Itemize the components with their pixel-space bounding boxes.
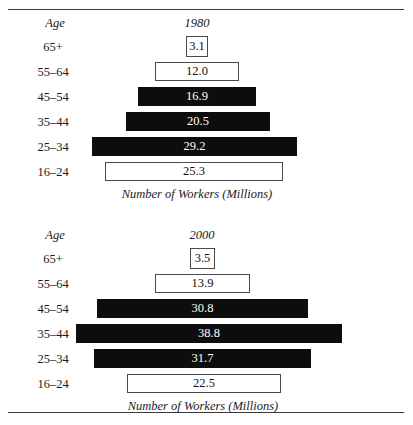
bar-row: 35–44 20.5 [0, 110, 413, 135]
age-label: 45–54 [16, 85, 90, 110]
bar-row: 45–54 30.8 [0, 297, 413, 322]
bar-value: 13.9 [155, 274, 250, 293]
panel-2000-caption: Number of Workers (Millions) [0, 399, 413, 419]
age-label: 55–64 [16, 272, 90, 297]
bar-value: 16.9 [138, 87, 256, 106]
worker-age-pyramid-figure: Age 1980 65+ 3.1 55–64 12.0 45–54 16.9 3… [0, 0, 413, 425]
bar-row: 25–34 31.7 [0, 347, 413, 372]
bar-row: 16–24 22.5 [0, 372, 413, 397]
age-label: 16–24 [16, 160, 90, 185]
bar-value: 12.0 [155, 62, 239, 81]
panel-1980: Age 1980 65+ 3.1 55–64 12.0 45–54 16.9 3… [0, 16, 413, 207]
year-header-1980: 1980 [157, 16, 237, 31]
bar-value: 3.5 [190, 248, 215, 269]
age-label: 35–44 [16, 110, 90, 135]
figure-top-rule [8, 9, 404, 10]
age-label: 55–64 [16, 60, 90, 85]
panel-2000: Age 2000 65+ 3.5 55–64 13.9 45–54 30.8 3… [0, 228, 413, 419]
bar-value: 38.8 [76, 324, 342, 343]
panel-1980-header: Age 1980 [0, 16, 413, 35]
year-header-2000: 2000 [162, 228, 242, 243]
bar-value: 29.2 [92, 137, 297, 156]
bar-row: 16–24 25.3 [0, 160, 413, 185]
age-label: 25–34 [16, 135, 90, 160]
age-label: 65+ [16, 35, 90, 60]
bar-row: 55–64 12.0 [0, 60, 413, 85]
bar-row: 45–54 16.9 [0, 85, 413, 110]
bar-row: 35–44 38.8 [0, 322, 413, 347]
age-label: 45–54 [16, 297, 90, 322]
age-column-header-2000: Age [24, 228, 86, 243]
bar-row: 55–64 13.9 [0, 272, 413, 297]
panel-2000-rows: 65+ 3.5 55–64 13.9 45–54 30.8 35–44 38.8… [0, 247, 413, 397]
panel-2000-header: Age 2000 [0, 228, 413, 247]
x-axis-label: Number of Workers (Millions) [73, 399, 333, 414]
age-label: 16–24 [16, 372, 90, 397]
bar-value: 25.3 [105, 162, 283, 181]
age-label: 65+ [16, 247, 90, 272]
panel-1980-caption: Number of Workers (Millions) [0, 187, 413, 207]
bar-row: 25–34 29.2 [0, 135, 413, 160]
bar-value: 30.8 [97, 299, 308, 318]
bar-value: 3.1 [186, 36, 208, 57]
bar-value: 22.5 [127, 374, 281, 393]
bar-row: 65+ 3.5 [0, 247, 413, 272]
age-column-header-1980: Age [24, 16, 86, 31]
age-label: 25–34 [16, 347, 90, 372]
bar-row: 65+ 3.1 [0, 35, 413, 60]
bar-value: 20.5 [126, 112, 270, 131]
panel-1980-rows: 65+ 3.1 55–64 12.0 45–54 16.9 35–44 20.5… [0, 35, 413, 185]
bar-value: 31.7 [94, 349, 311, 368]
x-axis-label: Number of Workers (Millions) [67, 187, 327, 202]
